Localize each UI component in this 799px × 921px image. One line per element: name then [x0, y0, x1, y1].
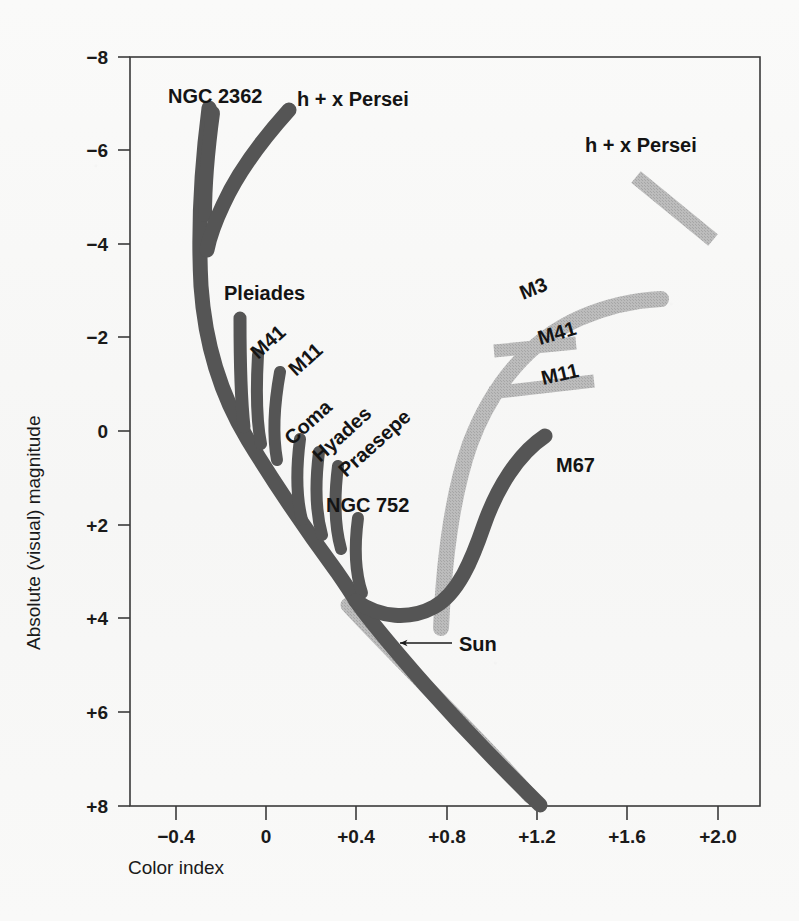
- y-tick-label-+4: +4: [86, 608, 108, 629]
- x-tick-label-+0.8: +0.8: [428, 826, 466, 847]
- coma-branch: [297, 439, 302, 520]
- label-ngc-752: NGC 752: [326, 494, 409, 516]
- x-tick-label-+1.2: +1.2: [518, 826, 556, 847]
- frame-rect: [130, 57, 760, 806]
- x-axis-ticks: [176, 806, 718, 820]
- x-tick-label-+2.0: +2.0: [699, 826, 737, 847]
- label-m67: M67: [556, 454, 595, 476]
- label-ngc-2362: NGC 2362: [168, 85, 263, 107]
- ngc-2362-branch: [205, 113, 213, 215]
- m11-branch-dark: [274, 372, 280, 460]
- plot-frame: [130, 57, 760, 806]
- x-axis-tick-labels: −0.4 0 +0.4 +0.8 +1.2 +1.6 +2.0: [157, 826, 737, 847]
- light-gray-bands: [348, 177, 713, 796]
- y-tick-label--8: −8: [86, 47, 108, 68]
- h-chi-persei-light-bar: [636, 177, 713, 240]
- x-tick-label--0.4: −0.4: [157, 826, 195, 847]
- label-h-chi-persei-left: h + x Persei: [297, 88, 409, 110]
- y-tick-label-+8: +8: [86, 796, 108, 817]
- y-tick-label--6: −6: [86, 140, 108, 161]
- y-axis-tick-labels: −8 −6 −4 −2 0 +2 +4 +6 +8: [86, 47, 108, 817]
- x-axis-title: Color index: [128, 857, 225, 878]
- h-chi-persei-dark-branch: [207, 110, 289, 250]
- label-h-chi-persei-right: h + x Persei: [585, 134, 697, 156]
- sun-label: Sun: [459, 633, 497, 655]
- ngc-752-branch: [356, 518, 362, 593]
- x-tick-label-0: 0: [261, 826, 272, 847]
- m41-branch-dark: [257, 355, 261, 444]
- label-pleiades: Pleiades: [224, 282, 305, 304]
- label-m3: M3: [516, 273, 550, 304]
- label-m11-left: M11: [284, 338, 327, 380]
- x-tick-label-+1.6: +1.6: [608, 826, 646, 847]
- y-tick-label--2: −2: [86, 327, 108, 348]
- y-tick-label-+2: +2: [86, 515, 108, 536]
- y-tick-label-+6: +6: [86, 702, 108, 723]
- y-axis-title: Absolute (visual) magnitude: [23, 416, 44, 650]
- pleiades-branch: [240, 318, 244, 427]
- y-axis-ticks: [118, 57, 130, 806]
- color-magnitude-diagram: −8 −6 −4 −2 0 +2 +4 +6 +8 −0.4 0 +0.4 +0…: [0, 0, 799, 921]
- y-tick-label-0: 0: [97, 421, 108, 442]
- sun-annotation: Sun: [400, 633, 497, 655]
- x-tick-label-+0.4: +0.4: [337, 826, 375, 847]
- m41-light-bar: [494, 343, 576, 351]
- figure-page: −8 −6 −4 −2 0 +2 +4 +6 +8 −0.4 0 +0.4 +0…: [0, 0, 799, 921]
- y-tick-label--4: −4: [86, 234, 108, 255]
